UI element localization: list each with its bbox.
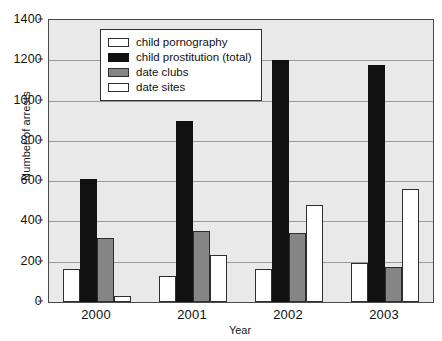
bar	[289, 233, 306, 302]
bar	[63, 269, 80, 302]
y-tick-mark	[38, 19, 43, 20]
legend: child pornographychild prostitution (tot…	[100, 29, 262, 101]
y-tick-mark	[38, 139, 43, 140]
bar-chart: Number of arrests 0200400600800100012001…	[0, 0, 442, 341]
bar	[368, 65, 385, 302]
bar	[210, 255, 227, 302]
x-axis-label: Year	[48, 324, 432, 336]
y-tick-mark	[38, 301, 43, 302]
y-tick-label: 0	[8, 294, 42, 308]
legend-swatch	[108, 38, 129, 47]
legend-swatch	[108, 53, 129, 62]
x-tick-label: 2001	[147, 307, 237, 322]
y-tick-label: 400	[8, 213, 42, 227]
bar	[97, 238, 114, 302]
bar	[402, 189, 419, 302]
bar	[176, 121, 193, 302]
legend-label: child prostitution (total)	[136, 51, 252, 64]
bar	[159, 276, 176, 302]
legend-item: child prostitution (total)	[108, 50, 252, 65]
legend-swatch	[108, 83, 129, 92]
x-tick-label: 2000	[51, 307, 141, 322]
y-tick-label: 1400	[8, 12, 42, 26]
legend-label: child pornography	[136, 36, 227, 49]
x-tick-label: 2002	[243, 307, 333, 322]
y-axis-ticks: 0200400600800100012001400	[0, 0, 42, 341]
bar	[306, 205, 323, 302]
y-tick-mark	[38, 59, 43, 60]
y-tick-mark	[38, 180, 43, 181]
legend-swatch	[108, 68, 129, 77]
legend-item: date clubs	[108, 65, 252, 80]
y-tick-label: 200	[8, 254, 42, 268]
bar	[80, 179, 97, 302]
legend-label: date clubs	[136, 66, 188, 79]
x-tick-label: 2003	[339, 307, 429, 322]
bar	[351, 263, 368, 302]
y-tick-label: 600	[8, 173, 42, 187]
legend-label: date sites	[136, 81, 185, 94]
bar	[114, 296, 131, 302]
bar	[255, 269, 272, 302]
y-tick-label: 1000	[8, 93, 42, 107]
legend-item: date sites	[108, 80, 252, 95]
bar	[272, 60, 289, 302]
bar	[193, 231, 210, 303]
y-tick-mark	[38, 260, 43, 261]
y-tick-label: 1200	[8, 52, 42, 66]
y-tick-label: 800	[8, 133, 42, 147]
y-tick-mark	[38, 99, 43, 100]
bar	[385, 267, 402, 302]
y-tick-mark	[38, 220, 43, 221]
legend-item: child pornography	[108, 35, 252, 50]
